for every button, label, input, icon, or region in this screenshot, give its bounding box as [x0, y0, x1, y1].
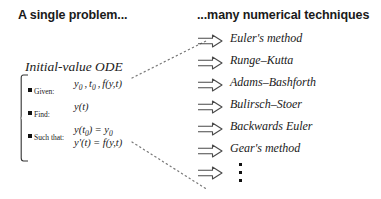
problem-title: Initial-value ODE — [25, 59, 123, 75]
problem-row-find: Find: — [28, 103, 50, 121]
double-right-arrow-icon — [197, 34, 223, 48]
expression-initial-condition: y(t0)=y0 — [74, 124, 113, 138]
double-right-arrow-icon — [197, 78, 223, 92]
technique-label-2: Runge–Kutta — [230, 53, 293, 68]
ode-rhs: f(y,t) — [103, 137, 123, 148]
double-right-arrow-icon — [197, 100, 223, 114]
row-label-given: Given: — [34, 87, 54, 96]
ic-lhs: y(t — [74, 124, 85, 135]
slide-canvas: A single problem... ...many numerical te… — [0, 0, 381, 199]
technique-label-3: Adams–Bashforth — [230, 75, 316, 90]
ode-equals: = — [91, 137, 103, 148]
bullet-icon — [28, 134, 32, 138]
bullet-icon — [28, 88, 32, 92]
bullet-icon — [28, 111, 32, 115]
double-right-arrow-icon — [197, 144, 223, 158]
technique-label-4: Bulirsch–Stoer — [230, 97, 302, 112]
problem-row-such-that: Such that: — [28, 126, 64, 144]
double-right-arrow-icon — [197, 56, 223, 70]
ic-equals: = — [92, 124, 104, 135]
expression-given: y0,t0,f(y,t) — [74, 78, 122, 92]
expression-find: y(t) — [74, 101, 89, 112]
vertical-ellipsis-icon — [239, 163, 242, 182]
header-right-techniques: ...many numerical techniques — [197, 8, 369, 22]
double-right-arrow-icon — [197, 122, 223, 136]
given-function: f(y,t) — [102, 78, 122, 89]
row-label-find: Find: — [34, 110, 50, 119]
header-left-problem: A single problem... — [18, 8, 127, 22]
ellipsis-dot — [239, 163, 242, 166]
ellipsis-dot — [239, 179, 242, 182]
ode-lhs: y'(t) — [74, 137, 91, 148]
expression-differential-equation: y'(t)=f(y,t) — [74, 137, 122, 148]
problem-row-given: Given: — [28, 80, 54, 98]
double-right-arrow-icon — [197, 166, 223, 180]
technique-label-5: Backwards Euler — [230, 119, 313, 134]
ellipsis-dot — [239, 171, 242, 174]
technique-label-1: Euler's method — [230, 31, 302, 46]
row-label-such-that: Such that: — [34, 133, 64, 142]
technique-label-6: Gear's method — [230, 141, 300, 156]
